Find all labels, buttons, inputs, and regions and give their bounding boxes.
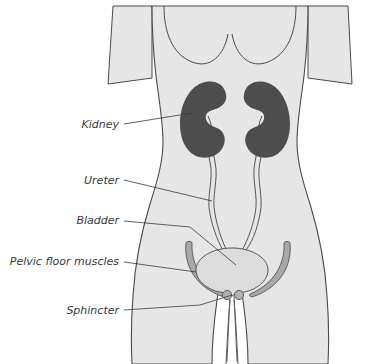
label-ureter: Ureter [84, 174, 120, 187]
labels-group: Kidney Ureter Bladder Pelvic floor muscl… [10, 118, 121, 317]
left-arm [108, 6, 152, 84]
label-sphincter: Sphincter [66, 304, 120, 317]
label-kidney: Kidney [81, 118, 119, 131]
urethra [227, 296, 237, 362]
label-pelvic-floor-muscles: Pelvic floor muscles [10, 255, 119, 268]
anatomy-diagram: Kidney Ureter Bladder Pelvic floor muscl… [0, 0, 370, 364]
right-arm [308, 6, 352, 84]
label-bladder: Bladder [76, 214, 120, 227]
right-sphincter [234, 290, 243, 299]
left-sphincter [222, 290, 231, 299]
torso-silhouette [131, 6, 328, 364]
